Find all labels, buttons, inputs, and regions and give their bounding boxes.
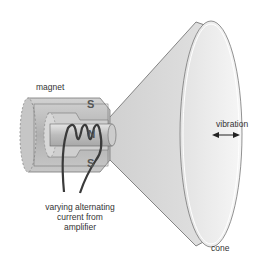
pole-s-top: S: [87, 99, 94, 109]
pole-n: N: [88, 130, 95, 140]
current-label-line1: varying alternating: [30, 202, 130, 212]
current-label: varying alternating current from amplifi…: [30, 202, 130, 232]
magnet-label: magnet: [36, 82, 64, 92]
pole-s-bottom: S: [87, 158, 94, 168]
double-headed-arrow-icon: [212, 130, 240, 140]
cone-label: cone: [211, 243, 229, 253]
current-label-line3: amplifier: [30, 222, 130, 232]
vibration-label: vibration: [216, 119, 248, 129]
current-label-line2: current from: [30, 212, 130, 222]
